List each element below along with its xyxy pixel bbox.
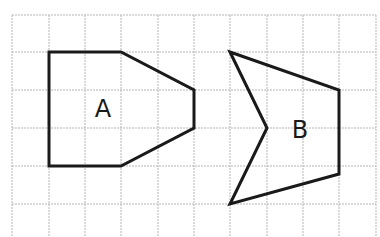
shape-a-label: A xyxy=(95,95,112,123)
grid-diagram: A B xyxy=(0,0,380,237)
shape-b-label: B xyxy=(292,116,308,144)
